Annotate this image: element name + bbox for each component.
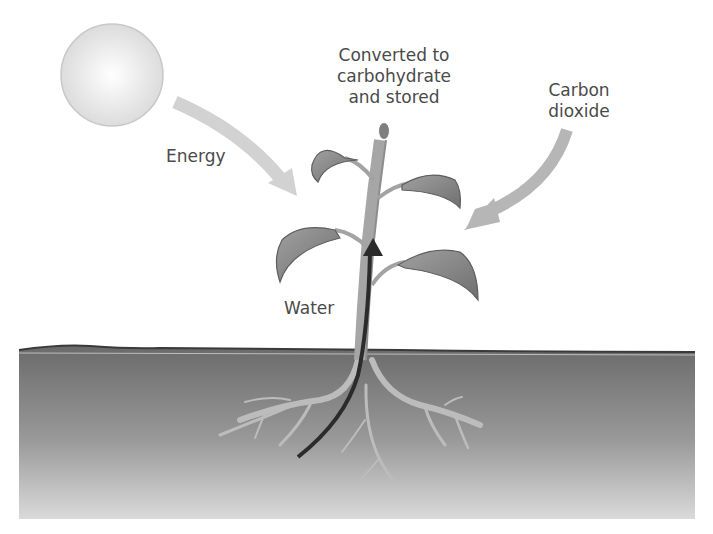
leaf (398, 250, 478, 300)
water-label: Water (284, 298, 334, 319)
carbon-dioxide-label: Carbon dioxide (536, 80, 622, 122)
leaf (312, 150, 358, 182)
energy-label: Energy (166, 146, 226, 167)
sun-icon (61, 24, 163, 126)
bud (379, 123, 389, 139)
product-label: Converted to carbohydrate and stored (330, 45, 458, 108)
carbon-dioxide-arrow (464, 130, 567, 230)
leaf (402, 175, 460, 208)
leaf (276, 228, 340, 282)
